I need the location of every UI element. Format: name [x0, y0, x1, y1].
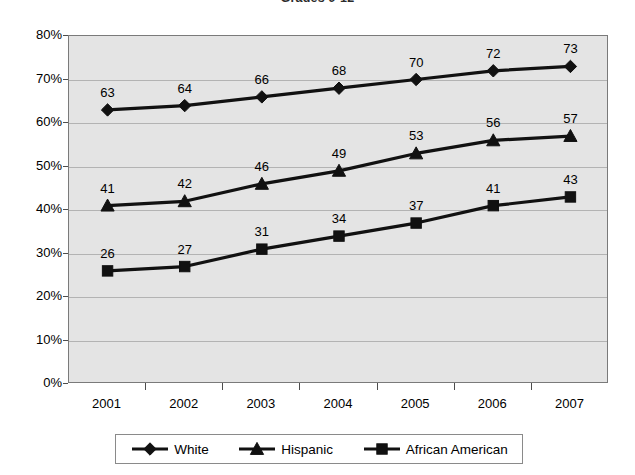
- x-axis-tick-label: 2005: [375, 396, 455, 411]
- x-axis: 2001200220032004200520062007: [68, 383, 608, 419]
- x-axis-tick-label: 2006: [452, 396, 532, 411]
- data-point-label: 72: [486, 46, 500, 61]
- data-point-label: 66: [255, 72, 269, 87]
- data-point-label: 53: [409, 128, 423, 143]
- data-point-label: 73: [563, 41, 577, 56]
- data-point-marker: [334, 231, 344, 241]
- series-hispanic: 41424649535657: [100, 111, 577, 211]
- x-axis-tick-label: 2004: [298, 396, 378, 411]
- x-axis-tick-mark: [222, 383, 223, 390]
- x-axis-tick-label: 2007: [529, 396, 609, 411]
- legend-item-hispanic[interactable]: Hispanic: [237, 440, 333, 458]
- x-axis-tick-label: 2002: [144, 396, 224, 411]
- legend-label: Hispanic: [281, 442, 333, 457]
- data-point-marker: [256, 91, 268, 103]
- data-point-marker: [101, 104, 113, 116]
- series-white: 63646668707273: [100, 41, 577, 116]
- data-point-label: 43: [563, 172, 577, 187]
- triangle-legend-icon: [237, 440, 277, 458]
- data-point-label: 63: [100, 85, 114, 100]
- data-point-label: 34: [332, 211, 346, 226]
- data-point-label: 42: [177, 176, 191, 191]
- data-point-label: 49: [332, 146, 346, 161]
- data-point-marker: [487, 65, 499, 77]
- data-point-label: 56: [486, 115, 500, 130]
- data-point-label: 41: [486, 181, 500, 196]
- diamond-legend-icon: [130, 440, 170, 458]
- plot-area: 6364666870727341424649535657262731343741…: [68, 35, 608, 383]
- data-point-label: 31: [255, 224, 269, 239]
- data-point-label: 57: [563, 111, 577, 126]
- data-point-label: 27: [177, 242, 191, 257]
- y-axis-ticks: [0, 35, 68, 383]
- data-point-label: 46: [255, 159, 269, 174]
- data-point-marker: [410, 73, 422, 85]
- data-point-marker: [411, 218, 421, 228]
- x-axis-tick-mark: [454, 383, 455, 390]
- data-point-label: 64: [177, 81, 191, 96]
- data-point-marker: [376, 444, 386, 454]
- data-point-label: 70: [409, 55, 423, 70]
- x-axis-tick-label: 2001: [67, 396, 147, 411]
- square-legend-icon: [362, 440, 402, 458]
- chart-legend: WhiteHispanicAfrican American: [115, 434, 523, 464]
- x-axis-tick-mark: [145, 383, 146, 390]
- data-point-marker: [257, 244, 267, 254]
- data-point-label: 41: [100, 181, 114, 196]
- data-point-marker: [333, 82, 345, 94]
- legend-item-african-american[interactable]: African American: [362, 440, 508, 458]
- x-axis-tick-mark: [377, 383, 378, 390]
- legend-label: White: [174, 442, 209, 457]
- data-point-label: 68: [332, 63, 346, 78]
- data-point-marker: [564, 60, 576, 72]
- legend-item-white[interactable]: White: [130, 440, 209, 458]
- data-point-marker: [179, 99, 191, 111]
- chart-title: Grades 9-12: [0, 0, 635, 5]
- x-axis-tick-label: 2003: [221, 396, 301, 411]
- x-axis-tick-mark: [531, 383, 532, 390]
- data-point-marker: [488, 200, 498, 210]
- data-point-marker: [565, 192, 575, 202]
- series-african-american: 26273134374143: [100, 172, 577, 276]
- legend-label: African American: [406, 442, 508, 457]
- data-point-marker: [102, 266, 112, 276]
- x-axis-tick-mark: [299, 383, 300, 390]
- data-point-marker: [180, 261, 190, 271]
- series-overlay: 6364666870727341424649535657262731343741…: [69, 36, 609, 384]
- data-point-marker: [144, 443, 156, 455]
- data-point-label: 37: [409, 198, 423, 213]
- data-point-label: 26: [100, 246, 114, 261]
